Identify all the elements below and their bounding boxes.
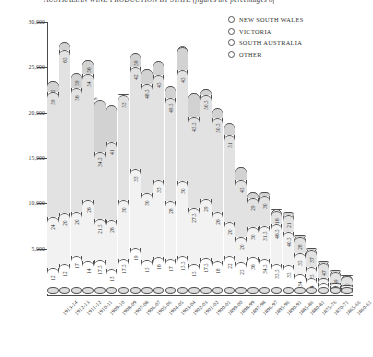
segment-value-label: 30: [250, 234, 256, 239]
segment-value-label: 42: [132, 75, 138, 80]
segment-victoria: 27.5: [188, 208, 199, 263]
segment-victoria: 31.5: [259, 226, 270, 258]
chart-column[interactable]: 252045: [235, 167, 246, 294]
segment-value-label: 56: [85, 67, 91, 72]
chart-column[interactable]: 3540.521: [283, 212, 294, 294]
chart-column[interactable]: 17205659: [71, 73, 82, 294]
segment-value-label: 30: [144, 200, 150, 205]
segment-other: [212, 108, 223, 118]
column-base-cap: [188, 287, 199, 294]
chart-column[interactable]: 49: [330, 270, 341, 294]
segment-victoria: 30: [118, 200, 129, 259]
segment-other: [283, 212, 294, 215]
segment-value-label: 15.5: [179, 261, 185, 270]
chart-column[interactable]: 342537: [306, 248, 317, 294]
segment-value-label: 16: [273, 218, 279, 223]
segment-value-label: 12: [50, 276, 56, 281]
segment-other: [330, 270, 341, 271]
segment-victoria: 35: [294, 253, 305, 274]
segment-other: 56: [82, 60, 93, 74]
segment-south-australia: 34.5: [94, 152, 105, 219]
segment-value-label: 26: [85, 208, 91, 213]
columns-container: 1224595122065172056591426545617.521.534.…: [47, 22, 353, 294]
segment-value-label: 40.5: [285, 238, 291, 247]
chart-column[interactable]: 1224595: [47, 81, 58, 294]
segment-other: [294, 235, 305, 237]
chart-column[interactable]: 182650.5: [212, 108, 223, 294]
segment-value-label: 50.5: [203, 101, 209, 110]
column-base-cap: [224, 287, 235, 294]
chart-column[interactable]: 50: [341, 275, 352, 294]
segment-other: [94, 100, 105, 152]
segment-south-australia: 42: [130, 67, 141, 168]
segment-south-australia: 47: [318, 263, 329, 278]
segment-south-australia: 59: [47, 92, 58, 218]
chart-title: AUSTRALIAN WINE PRODUCTION BY STATE (fig…: [44, 0, 274, 5]
segment-value-label: 20: [226, 229, 232, 234]
segment-victoria: 28: [165, 201, 176, 259]
segment-value-label: 27.5: [191, 214, 197, 223]
segment-victoria: 30: [141, 193, 152, 260]
column-base-cap: [200, 287, 211, 294]
segment-other: [224, 123, 235, 135]
segment-value-label: 19: [132, 256, 138, 261]
plot-area: AUSTRALIAN WINE PRODUCTION IN '000 LITRE…: [47, 22, 353, 294]
column-base-cap: [341, 287, 352, 294]
segment-other: [247, 192, 258, 197]
segment-value-label: 34: [297, 281, 303, 286]
segment-victoria: [330, 283, 341, 286]
segment-value-label: 51: [226, 142, 232, 147]
chart-column[interactable]: 17.521.534.5: [94, 101, 105, 294]
chart-column[interactable]: 1527.545.5: [188, 93, 199, 294]
column-base-cap: [283, 287, 294, 294]
segment-other: [106, 105, 117, 143]
chart-column[interactable]: 17.52950.5: [200, 89, 211, 294]
segment-victoria: 20: [71, 212, 82, 256]
segment-victoria: 20: [235, 237, 246, 262]
column-base-cap: [71, 287, 82, 294]
chart-column[interactable]: 3447: [318, 261, 329, 294]
chart-column[interactable]: 222051: [224, 123, 235, 294]
chart-column[interactable]: 132641: [106, 105, 117, 294]
segment-south-australia: 65: [59, 50, 70, 214]
chart-column[interactable]: 163345: [153, 61, 164, 294]
chart-column[interactable]: 122065: [59, 42, 70, 294]
segment-victoria: 30: [177, 181, 188, 255]
segment-value-label: 13: [109, 277, 115, 282]
segment-value-label: 34.5: [97, 157, 103, 166]
segment-victoria: 30: [247, 227, 258, 257]
segment-victoria: 24: [47, 217, 58, 268]
segment-value-label: 18: [215, 268, 221, 273]
segment-south-australia: 41: [106, 142, 117, 220]
column-base-cap: [130, 287, 141, 294]
segment-value-label: 56: [73, 96, 79, 101]
segment-other: [306, 248, 317, 250]
segment-value-label: 53: [120, 103, 126, 108]
chart-column[interactable]: 14265456: [82, 60, 93, 294]
segment-value-label: 17.5: [203, 263, 209, 272]
chart-column[interactable]: 17.53053: [118, 96, 129, 294]
segment-value-label: 33: [132, 176, 138, 181]
chart-column[interactable]: 343528: [294, 235, 305, 294]
chart-column[interactable]: 19334259: [130, 53, 141, 294]
segment-value-label: 48.5: [144, 89, 150, 98]
segment-value-label: 17.5: [97, 266, 103, 275]
y-tick-label: 20,000: [28, 110, 45, 116]
segment-value-label: 24: [50, 225, 56, 230]
segment-victoria: 21.5: [94, 219, 105, 261]
x-axis-line: [47, 295, 353, 296]
segment-victoria: 20: [59, 213, 70, 263]
segment-value-label: 12: [62, 271, 68, 276]
segment-other: [141, 69, 152, 84]
chart-column[interactable]: 15.53045: [177, 46, 188, 294]
segment-victoria: 26: [212, 212, 223, 260]
chart-column[interactable]: 363029: [247, 192, 258, 294]
chart-column[interactable]: 34.531.530: [259, 192, 270, 294]
chart-column[interactable]: 35.546.516: [271, 209, 282, 294]
chart-column[interactable]: 172849.5: [165, 86, 176, 294]
segment-south-australia: 56: [71, 88, 82, 212]
chart-column[interactable]: 153048.5: [141, 69, 152, 294]
segment-value-label: 26: [109, 227, 115, 232]
segment-value-label: 46.5: [273, 229, 279, 238]
